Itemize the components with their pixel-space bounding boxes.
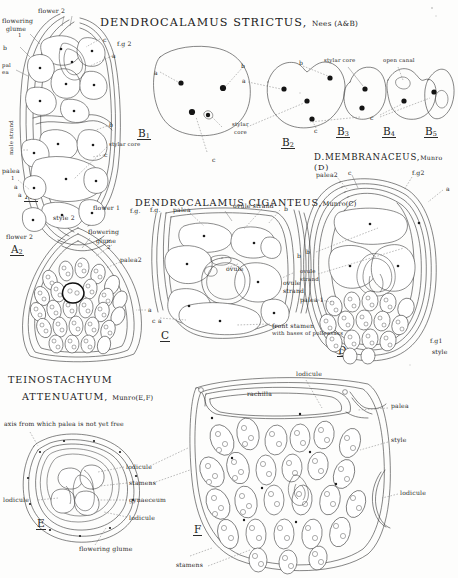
annotation-b-stylar: stylar [232, 122, 249, 128]
annotation-c-strand: strand [283, 288, 304, 294]
annotation-c-a: a [158, 318, 162, 324]
annotation-f-style: style [391, 437, 407, 443]
annotation-d-palea-1: palea 1 [300, 297, 324, 303]
annotation-b-a: a [242, 78, 246, 84]
annotation-a1-style-2: style 2 [53, 215, 75, 221]
annotation-c-front-stamen: front stamen [272, 323, 314, 329]
annotation-d-ovule: ovule [300, 269, 316, 275]
annotation-a1-flower-2: flower 2 [38, 8, 65, 14]
annotation-a1-f-g-2: f.g 2 [117, 41, 132, 47]
figure-c-drawing [152, 208, 311, 338]
annotation-a1-c: c [103, 37, 107, 43]
annotation-c-c: c [152, 318, 156, 324]
annotation-a1-pal: pal [2, 63, 11, 69]
annotation-d-palea2: palea2 [316, 172, 338, 178]
annotation-d-f-g1: f.g1 [430, 338, 443, 344]
annotation-a1-ea: ea [2, 70, 9, 76]
annotation-a2-palea2: palea2 [120, 257, 142, 263]
annotation-a1-a: a [112, 53, 116, 59]
annotation-a1-a: a [14, 184, 18, 190]
annotation-c-with-bases-of-pollensacs: with bases of pollensacs [272, 331, 343, 337]
annotation-d-f-g2: f.g2 [412, 170, 425, 176]
annotation-a1-f-g: f.g. [130, 208, 141, 214]
annotation-a1-flowering: flowering [2, 18, 33, 24]
annotation-c-b: b [297, 253, 301, 259]
figure-b1-drawing [154, 46, 251, 152]
figure-b2-drawing [247, 62, 345, 128]
annotation-c-b: b [284, 206, 288, 212]
annotation-e-flowering-glume: flowering glume [79, 546, 132, 552]
annotation-b-a: a [154, 70, 158, 76]
annotation-d-style: style [432, 349, 448, 355]
annotation-a1-stylar-core: stylar core [109, 142, 140, 148]
annotation-f-rachilla: rachilla [247, 391, 272, 397]
annotation-a2-flowering: flowering [88, 229, 119, 235]
annotation-b-c: c [314, 128, 318, 134]
annotation-e-stamens: stamens [129, 480, 156, 486]
annotation-e-lodicule: lodicule [3, 497, 29, 503]
annotation-d-strand: strand [300, 277, 319, 283]
annotation-c-f-g: f.g. [150, 207, 161, 213]
annotation-b-open-canal: open canal [383, 58, 415, 64]
annotation-f-palea: palea [391, 403, 409, 409]
figure-f-drawing [190, 378, 398, 575]
illustration-plate: DENDROCALAMUS STRICTUS, Nees (A&B) DENDR… [0, 0, 458, 578]
figure-a2-drawing [23, 228, 146, 362]
annotation-a1-1: 1 [18, 33, 22, 39]
annotation-a1-flower-1: flower 1 [93, 205, 120, 211]
figure-e-drawing [23, 432, 190, 545]
annotation-a1-a: a [18, 192, 22, 198]
annotation-a2-flower-2: flower 2 [6, 234, 33, 240]
annotation-b-core: core [234, 130, 247, 136]
figure-b5-drawing [380, 69, 454, 119]
annotation-e-lodicule: lodicule [126, 464, 152, 470]
annotation-b-b: b [241, 63, 245, 69]
annotation-d-c: c [348, 170, 352, 176]
annotation-b-b: b [299, 60, 303, 66]
annotation-a1-palea: palea [2, 168, 20, 174]
annotation-f-lodicule: lodicule [400, 490, 426, 496]
annotation-f-lodicule: lodicule [296, 371, 322, 377]
annotation-d-b: b [306, 249, 310, 255]
annotation-b-c: c [212, 157, 216, 163]
annotation-a1-c: c [104, 152, 108, 158]
annotation-b-stylar-core: stylar core [324, 58, 355, 64]
annotation-f-stamens: stamens [176, 562, 203, 568]
annotation-a1-male-strand: male strand [9, 120, 15, 155]
annotation-e-axis-from-which-palea-is-not-yet-free: axis from which palea is not yet free [4, 421, 124, 427]
annotation-c-ovule: ovule [283, 280, 301, 286]
annotation-c-ovule: ovule [226, 266, 244, 272]
annotation-e-gynaeceum: gynaeceum [129, 497, 166, 503]
figure-b3-drawing [310, 67, 386, 122]
annotation-a2-a: a [148, 307, 152, 313]
annotation-a1-1: 1 [11, 176, 15, 182]
annotation-c-ovule-strand: ovule strand [233, 203, 274, 209]
plate-drawings [0, 0, 458, 578]
annotation-b-c: c [370, 115, 374, 121]
annotation-a1-b: b [3, 45, 7, 51]
annotation-c-palea: palea [173, 207, 191, 213]
annotation-e-lodicule: lodicule [129, 515, 155, 521]
annotation-a2-2: 2 [107, 245, 111, 251]
annotation-d-a: a [446, 186, 450, 192]
annotation-a1-glume: glume [6, 26, 26, 32]
annotation-a1-b: b [109, 122, 113, 128]
